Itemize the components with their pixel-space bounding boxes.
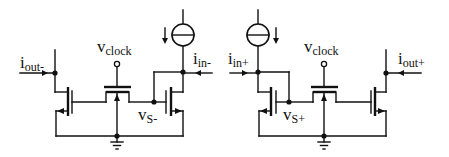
body-arrow-icon [321, 94, 327, 101]
source-arrow-icon [260, 108, 267, 114]
source-arrow-icon [378, 108, 385, 114]
iin-minus-label: iin- [193, 49, 211, 70]
arrow-down-icon [162, 28, 168, 44]
current-source-right [247, 10, 279, 92]
ground-icon [111, 136, 123, 149]
source-arrow-icon [175, 108, 182, 114]
iin-minus-arrow-icon [183, 70, 212, 76]
iout-minus-node [52, 70, 57, 75]
clock-terminal [321, 61, 326, 66]
iin-plus-arrow-icon [230, 70, 258, 76]
nmos-input-left [154, 72, 183, 136]
right-half: iin+ vS+ [228, 10, 425, 149]
vs-plus-label: vS+ [283, 105, 305, 126]
nmos-output-right [371, 50, 386, 136]
iout-minus-label: iout- [20, 53, 44, 74]
iin-plus-label: iin+ [228, 49, 249, 70]
iout-plus-arrow-icon [386, 70, 421, 76]
iin-minus-node [180, 69, 185, 74]
left-half: iout- [20, 10, 212, 149]
nmos-output-left [55, 87, 106, 136]
vclock-right-label: vclock [304, 37, 339, 58]
ground-icon [318, 136, 330, 149]
body-arrow-icon [114, 94, 120, 101]
current-source-left [162, 10, 194, 72]
iout-plus-label: iout+ [398, 49, 425, 70]
circuit-diagram: iout- [0, 0, 449, 157]
source-arrow-icon [57, 108, 64, 114]
arrow-down-icon [273, 28, 279, 44]
clock-terminal [114, 61, 119, 66]
vs-minus-label: vS- [138, 105, 157, 126]
vclock-left-label: vclock [97, 37, 132, 58]
